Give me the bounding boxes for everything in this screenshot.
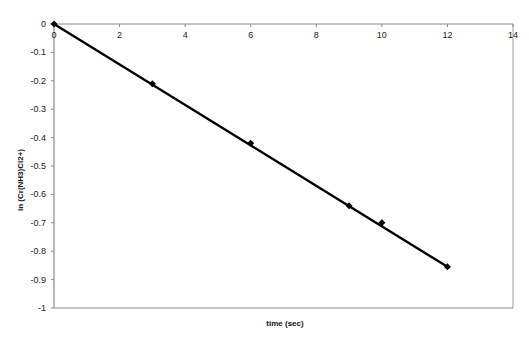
y-axis-title: ln (Cr(NH3)Cl2+) <box>16 149 25 211</box>
x-tick-label: 2 <box>117 30 122 40</box>
x-tick-label: 4 <box>183 30 188 40</box>
y-tick-label: -0.3 <box>30 104 46 114</box>
y-tick-label: -0.2 <box>30 76 46 86</box>
x-tick-label: 10 <box>377 30 387 40</box>
x-tick-label: 6 <box>248 30 253 40</box>
x-tick-label: 12 <box>442 30 452 40</box>
x-tick-label: 0 <box>51 30 56 40</box>
x-tick-label: 8 <box>314 30 319 40</box>
y-tick-label: -0.1 <box>30 47 46 57</box>
y-tick-label: 0 <box>41 19 46 29</box>
y-tick-label: -0.9 <box>30 275 46 285</box>
x-tick-label: 14 <box>508 30 518 40</box>
y-tick-label: -0.8 <box>30 246 46 256</box>
x-axis-ticks: 02468101214 <box>51 24 518 40</box>
y-tick-label: -0.7 <box>30 218 46 228</box>
y-tick-label: -0.5 <box>30 161 46 171</box>
y-tick-label: -0.6 <box>30 189 46 199</box>
chart: 02468101214 0-0.1-0.2-0.3-0.4-0.5-0.6-0.… <box>0 0 529 342</box>
y-axis-ticks: 0-0.1-0.2-0.3-0.4-0.5-0.6-0.7-0.8-0.9-1 <box>30 19 54 313</box>
y-tick-label: -0.4 <box>30 133 46 143</box>
y-tick-label: -1 <box>38 303 46 313</box>
x-axis-title: time (sec) <box>266 319 304 328</box>
